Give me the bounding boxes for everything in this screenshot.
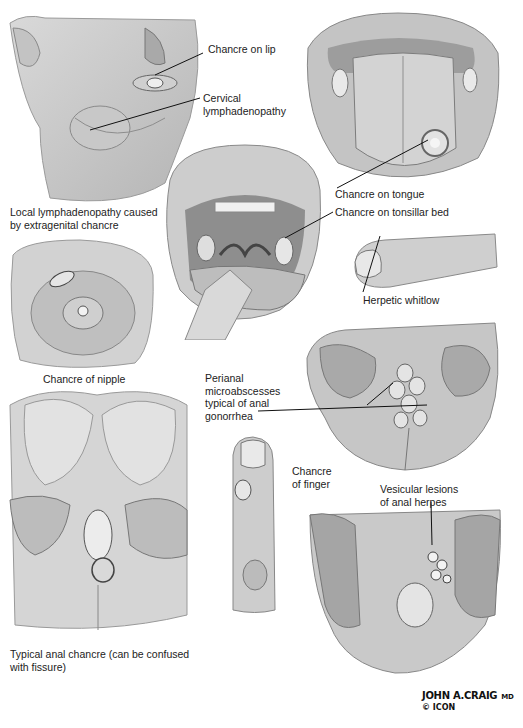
caption-typical-anal-chancre: Typical anal chancre (can be confused wi…	[10, 648, 189, 673]
thumb-illustration	[345, 232, 500, 292]
label-chancre-on-lip: Chancre on lip	[208, 43, 276, 56]
label-chancre-on-tongue: Chancre on tongue	[335, 188, 424, 201]
label-chancre-on-tonsillar-bed: Chancre on tonsillar bed	[335, 206, 449, 219]
label-cervical-lymphadenopathy: Cervical lymphadenopathy	[203, 92, 286, 117]
anal-herpes-illustration	[305, 505, 503, 675]
label-chancre-of-finger: Chancre of finger	[292, 465, 332, 490]
artist-name: JOHN A.CRAIG	[422, 690, 497, 701]
copyright-mark: © ICON	[422, 703, 455, 712]
medical-illustration-plate: Chancre on lip Cervical lymphadenopathy …	[0, 0, 523, 728]
perianal-gonorrhea-illustration	[305, 318, 503, 473]
label-herpetic-whitlow: Herpetic whitlow	[363, 294, 439, 307]
caption-chancre-of-nipple: Chancre of nipple	[43, 373, 125, 386]
artist-suffix: MD	[501, 693, 513, 701]
anal-chancre-illustration	[5, 385, 190, 635]
nipple-illustration	[5, 235, 155, 370]
caption-local-lymphadenopathy: Local lymphadenopathy caused by extragen…	[10, 206, 158, 231]
artist-signature: JOHN A.CRAIGMD	[422, 690, 513, 701]
label-vesicular-lesions: Vesicular lesions of anal herpes	[380, 483, 458, 508]
oral-cavity-illustration	[160, 140, 330, 340]
label-perianal-microabscesses: Perianal microabscesses typical of anal …	[205, 372, 280, 422]
finger-illustration	[225, 435, 280, 615]
